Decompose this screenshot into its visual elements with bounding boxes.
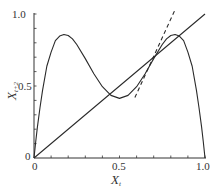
plot-series [34, 10, 205, 158]
chart: 1.0 0.5 0 0 0.5 1.0 Xt Xt+2 [0, 0, 215, 186]
tangent-dashed-line [135, 10, 175, 98]
tick-labels: 1.0 0.5 0 0 0.5 1.0 [12, 8, 210, 172]
y-tick-label-1: 1.0 [12, 8, 26, 20]
x-tick-label-1: 1.0 [196, 160, 210, 172]
second-iterate-curve [34, 34, 205, 158]
x-tick-label-0: 0 [32, 160, 38, 172]
x-tick-label-05: 0.5 [112, 160, 126, 172]
y-tick-label-05: 0.5 [18, 80, 32, 92]
x-axis-label: Xt [110, 172, 122, 186]
y-axis-label-sub: t+2 [12, 81, 20, 92]
y-tick-label-0: 0 [25, 150, 31, 162]
y-axis-label: Xt+2 [4, 81, 20, 101]
x-axis-label-sub: t [119, 180, 122, 186]
